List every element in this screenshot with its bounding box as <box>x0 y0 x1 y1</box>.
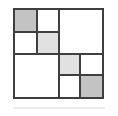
figure-canvas <box>13 8 104 99</box>
bottom-right-quadrant-cell-tr <box>80 54 102 76</box>
bottom-right-quadrant-cell-bl <box>59 75 81 97</box>
bottom-right-quadrant-cell-tl <box>59 54 81 76</box>
top-left-quadrant-cell-bl <box>15 32 37 54</box>
top-left-sub-horizontal-line <box>15 31 59 33</box>
top-left-quadrant-cell-tr <box>37 10 59 32</box>
bottom-right-quadrant-cell-br <box>80 75 102 97</box>
top-right-quadrant <box>59 10 103 54</box>
mid-horizontal-line <box>15 53 102 55</box>
top-left-quadrant-cell-tl <box>15 10 37 32</box>
top-left-quadrant-cell-br <box>37 32 59 54</box>
bottom-right-sub-horizontal-line <box>59 74 103 76</box>
diagram-stage <box>0 0 118 116</box>
bottom-left-quadrant <box>15 54 59 98</box>
scan-artifact-shadow <box>13 107 105 109</box>
